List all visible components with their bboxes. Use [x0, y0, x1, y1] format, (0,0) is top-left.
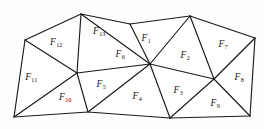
face-label-f12: F12: [50, 38, 62, 48]
face-label-f8: F8: [235, 73, 244, 83]
mesh-svg: [0, 0, 264, 129]
face-label-subscript: 13: [99, 30, 105, 37]
face-label-subscript: 4: [139, 95, 142, 102]
face-label-subscript: 12: [56, 41, 62, 48]
face-label-f2: F2: [181, 51, 190, 61]
face-label-f10: F10: [59, 93, 71, 103]
triangular-mesh-figure: F1F2F3F4F5F6F7F8F9F10F11F12F13: [0, 0, 264, 129]
face-label-subscript: 5: [103, 83, 106, 90]
face-label-subscript: 2: [187, 54, 190, 61]
face-label-subscript: 1: [148, 37, 151, 44]
face-label-subscript: 10: [65, 96, 71, 103]
face-label-subscript: 7: [225, 43, 228, 50]
face-label-f5: F5: [97, 80, 106, 90]
face-label-subscript: 6: [122, 53, 125, 60]
face-label-f13: F13: [93, 27, 105, 37]
face-label-f9: F9: [211, 99, 220, 109]
face-label-f6: F6: [116, 50, 125, 60]
face-label-subscript: 8: [241, 76, 244, 83]
face-label-subscript: 11: [31, 76, 37, 83]
face-label-f11: F11: [25, 73, 37, 83]
face-label-subscript: 3: [180, 89, 183, 96]
face-label-f1: F1: [142, 34, 151, 44]
face-label-f4: F4: [133, 92, 142, 102]
face-label-f7: F7: [219, 40, 228, 50]
face-label-subscript: 9: [217, 102, 220, 109]
face-label-f3: F3: [174, 86, 183, 96]
